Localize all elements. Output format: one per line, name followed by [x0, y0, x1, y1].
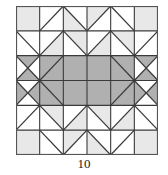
quilt-cell-r2-c3: [87, 56, 111, 81]
quilt-cell-r0-c5: [134, 6, 158, 31]
quilt-block-container: [16, 6, 158, 155]
quilt-cell-r2-c2: [63, 56, 87, 81]
quilt-cell-r5-c0: [16, 130, 40, 155]
quilt-cell-r3-c3: [87, 81, 111, 106]
quilt-cell-r0-c0: [16, 6, 40, 31]
quilt-cell-r5-c5: [134, 130, 158, 155]
quilt-block-diagram: [16, 6, 158, 155]
figure-caption: 10: [0, 155, 168, 173]
quilt-cell-r3-c2: [63, 81, 87, 106]
quilt-block-figure: 10: [0, 0, 168, 175]
